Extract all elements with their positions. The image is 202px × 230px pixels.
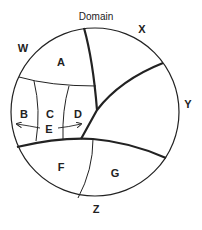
boundary-x-west xyxy=(81,28,97,139)
boundary-b-c xyxy=(34,81,38,141)
label-y: Y xyxy=(184,98,192,110)
boundary-a xyxy=(19,77,96,86)
label-z: Z xyxy=(93,203,100,215)
region-e: E xyxy=(45,123,52,135)
region-b: B xyxy=(20,108,28,120)
region-c: C xyxy=(46,108,54,120)
region-g: G xyxy=(111,167,120,179)
e-arrow-right xyxy=(58,124,81,128)
label-x: X xyxy=(138,23,146,35)
region-f: F xyxy=(58,161,65,173)
e-arrow-left xyxy=(17,124,40,128)
boundary-x-y xyxy=(97,63,163,110)
region-a: A xyxy=(57,56,65,68)
boundary-f-g xyxy=(78,139,93,198)
label-w: W xyxy=(18,42,29,54)
boundary-c-d xyxy=(63,86,69,139)
title-domain: Domain xyxy=(79,11,113,22)
domain-diagram: Domain W X Y Z A B C D E F G xyxy=(0,0,202,230)
region-d: D xyxy=(74,108,82,120)
